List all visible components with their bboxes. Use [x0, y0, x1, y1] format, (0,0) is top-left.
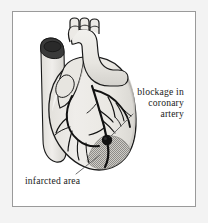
label-blockage-in-coronary-artery: blockage in coronary artery: [100, 86, 184, 119]
label-blockage-line-1: blockage in: [100, 86, 184, 97]
figure-page: blockage in coronary artery infarcted ar…: [0, 0, 208, 223]
label-blockage-line-2: coronary: [100, 97, 184, 108]
label-infarcted-area: infarcted area: [25, 175, 80, 186]
label-blockage-line-3: artery: [100, 108, 184, 119]
